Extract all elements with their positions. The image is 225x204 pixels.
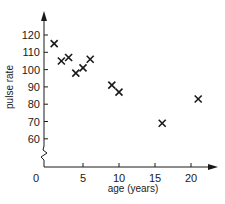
y-tick-label: 110 (22, 46, 40, 58)
data-point-x-marker (80, 64, 87, 71)
data-point-x-marker (72, 70, 79, 77)
y-tick-label: 90 (28, 81, 40, 93)
y-axis-title: pulse rate (4, 65, 15, 109)
x-arrow-icon (208, 164, 218, 170)
axis-break-icon (41, 146, 47, 167)
y-tick-label: 120 (22, 29, 40, 41)
data-point-x-marker (51, 40, 58, 47)
data-point-x-marker (159, 120, 166, 127)
x-origin-label: 0 (33, 172, 39, 184)
axes (41, 11, 218, 170)
y-tick-label: 80 (28, 98, 40, 110)
data-point-x-marker (108, 82, 115, 89)
x-axis-title: age (years) (108, 183, 159, 194)
x-tick-label: 5 (80, 172, 86, 184)
y-tick-label: 100 (22, 64, 40, 76)
ticks: 607080901001101205101520 (22, 29, 197, 184)
y-arrow-icon (41, 11, 47, 21)
data-point-x-marker (195, 96, 202, 103)
scatter-chart: 607080901001101205101520 age (years) pul… (0, 0, 225, 204)
data-points (51, 40, 202, 127)
data-point-x-marker (87, 56, 94, 63)
data-point-x-marker (58, 57, 65, 64)
y-tick-label: 70 (28, 116, 40, 128)
data-point-x-marker (65, 54, 72, 61)
y-tick-label: 60 (28, 133, 40, 145)
data-point-x-marker (116, 89, 123, 96)
x-tick-label: 20 (185, 172, 197, 184)
